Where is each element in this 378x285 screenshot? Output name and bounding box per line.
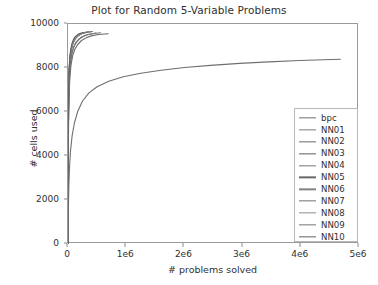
legend-item-nn04[interactable]: NN04 (299, 160, 353, 172)
legend-label: NN03 (321, 149, 345, 158)
legend-swatch-nn07 (299, 196, 316, 207)
legend-item-bpc[interactable]: bpc (299, 112, 353, 124)
legend-item-nn07[interactable]: NN07 (299, 195, 353, 207)
legend-label: NN07 (321, 197, 345, 206)
legend-item-nn09[interactable]: NN09 (299, 219, 353, 231)
series-line-nn05 (68, 34, 108, 244)
y-axis-label: # cells used (28, 79, 39, 199)
y-tick-label: 8000 (0, 62, 59, 72)
legend-item-nn08[interactable]: NN08 (299, 207, 353, 219)
legend-item-nn01[interactable]: NN01 (299, 124, 353, 136)
legend-label: NN08 (321, 209, 345, 218)
x-tick-label: 1e6 (117, 249, 134, 259)
x-tick-label: 5e6 (350, 249, 367, 259)
chart-legend[interactable]: bpcNN01NN02NN03NN04NN05NN06NN07NN08NN09N… (294, 108, 358, 242)
legend-label: NN10 (321, 233, 345, 242)
legend-swatch-nn01 (299, 124, 316, 135)
legend-item-nn10[interactable]: NN10 (299, 231, 353, 243)
series-line-nn04 (68, 33, 101, 244)
y-tick-label: 10000 (0, 18, 59, 28)
legend-label: NN05 (321, 173, 345, 182)
legend-label: NN02 (321, 137, 345, 146)
legend-swatch-nn09 (299, 219, 316, 230)
legend-item-nn05[interactable]: NN05 (299, 171, 353, 183)
legend-swatch-nn10 (299, 231, 316, 242)
y-tick-label: 0 (0, 238, 59, 248)
x-tick-label: 3e6 (233, 249, 250, 259)
legend-swatch-bpc (299, 112, 316, 123)
legend-item-nn02[interactable]: NN02 (299, 136, 353, 148)
x-tick-label: 4e6 (291, 249, 308, 259)
x-tick-label: 0 (64, 249, 70, 259)
legend-label: NN04 (321, 161, 345, 170)
legend-swatch-nn05 (299, 172, 316, 183)
x-tick-label: 2e6 (175, 249, 192, 259)
chart-figure: Plot for Random 5-Variable Problems 0200… (0, 0, 378, 285)
chart-title: Plot for Random 5-Variable Problems (0, 4, 378, 16)
legend-swatch-nn04 (299, 160, 316, 171)
legend-swatch-nn06 (299, 184, 316, 195)
legend-swatch-nn08 (299, 208, 316, 219)
legend-label: NN06 (321, 185, 345, 194)
legend-label: NN01 (321, 126, 345, 135)
legend-item-nn03[interactable]: NN03 (299, 148, 353, 160)
legend-label: bpc (321, 114, 337, 123)
x-axis-label: # problems solved (67, 264, 358, 275)
legend-item-nn06[interactable]: NN06 (299, 183, 353, 195)
legend-swatch-nn03 (299, 148, 316, 159)
legend-swatch-nn02 (299, 136, 316, 147)
legend-label: NN09 (321, 221, 345, 230)
